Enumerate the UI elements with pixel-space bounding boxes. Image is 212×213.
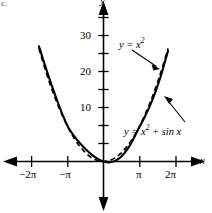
x-axis-name: x [200, 154, 205, 166]
label-solid-base: y = x [124, 126, 146, 137]
arrowhead-icon [152, 64, 160, 70]
label-dashed-exponent: 2 [141, 36, 145, 45]
plot-svg [0, 0, 212, 213]
y-tick-label-10: 10 [80, 101, 91, 113]
y-tick-label-30: 30 [80, 29, 91, 41]
annotation-leader-solid [164, 96, 185, 122]
figure-canvas: c. [0, 0, 212, 213]
x-axis-arrow-left [3, 157, 17, 167]
x-tick-label--pi: −π [59, 168, 71, 180]
label-curve-y-equals-x-squared-plus-sin-x: y = x2 + sin x [124, 123, 181, 137]
arrowhead-icon [164, 96, 173, 104]
y-axis-name: y [100, 0, 105, 6]
label-solid-suffix: + sin x [149, 126, 181, 137]
label-dashed-base: y = x [119, 39, 141, 50]
x-tick-label-pi: π [136, 168, 142, 180]
y-axis-arrow-down [99, 197, 109, 211]
x-tick-label-2pi: 2π [165, 168, 176, 180]
annotation-leader-dashed [132, 50, 160, 71]
y-axis [99, 1, 109, 211]
x-tick-label--2pi: −2π [19, 168, 36, 180]
label-curve-y-equals-x-squared: y = x2 [119, 36, 144, 50]
y-tick-label-20: 20 [80, 65, 91, 77]
